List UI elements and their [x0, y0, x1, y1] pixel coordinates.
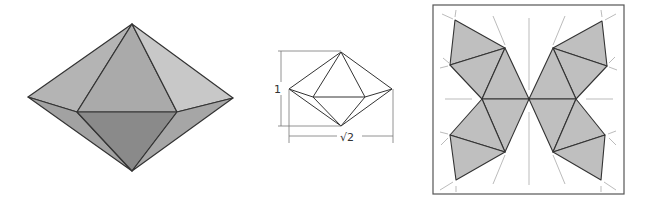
width-label: √2 — [340, 131, 354, 144]
height-label: 1 — [274, 83, 281, 96]
octahedron-solid — [28, 24, 233, 171]
octahedron-dimensioned — [289, 52, 392, 126]
diagram-canvas: 1 √2 — [0, 0, 653, 206]
